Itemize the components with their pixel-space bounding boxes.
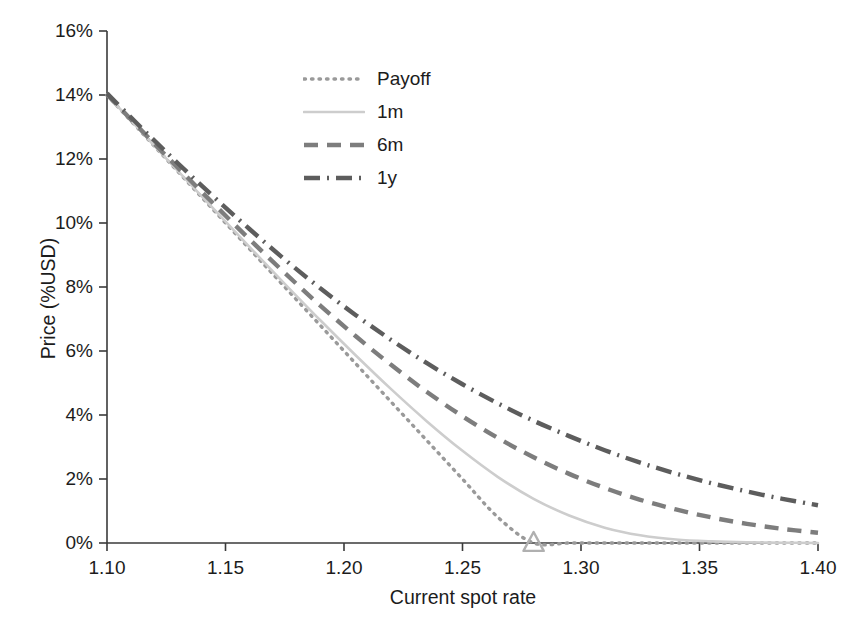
legend-label: 1m <box>377 101 403 123</box>
legend-item-1m[interactable]: 1m <box>303 95 431 128</box>
y-tick-label: 2% <box>0 468 93 490</box>
x-tick-label: 1.30 <box>563 557 600 579</box>
legend-label: 1y <box>377 167 397 189</box>
axis-lines <box>107 31 818 543</box>
y-tick-label: 14% <box>0 84 93 106</box>
chart-container: 0%2%4%6%8%10%12%14%16% 1.101.151.201.251… <box>0 0 851 621</box>
series-line-1y <box>107 93 818 505</box>
legend-label: 6m <box>377 134 403 156</box>
legend-label: Payoff <box>377 68 431 90</box>
y-axis-title: Price (%USD) <box>37 189 60 409</box>
legend-swatch-6m-icon <box>303 136 365 154</box>
strike-marker <box>523 532 543 551</box>
legend-item-1y[interactable]: 1y <box>303 161 431 194</box>
x-tick-label: 1.10 <box>89 557 126 579</box>
x-tick-label: 1.40 <box>800 557 837 579</box>
legend-swatch-payoff-icon <box>303 70 365 88</box>
x-axis-title: Current spot rate <box>107 586 819 609</box>
legend-item-payoff[interactable]: Payoff <box>303 62 431 95</box>
y-tick-label: 0% <box>0 532 93 554</box>
x-tick-label: 1.15 <box>207 557 244 579</box>
series-line-payoff <box>107 95 818 545</box>
series-line-6m <box>107 94 818 532</box>
tick-marks <box>99 31 818 551</box>
x-tick-label: 1.25 <box>444 557 481 579</box>
legend-item-6m[interactable]: 6m <box>303 128 431 161</box>
chart-legend: Payoff1m6m1y <box>303 62 431 194</box>
series-line-1m <box>107 95 818 543</box>
legend-swatch-1y-icon <box>303 169 365 187</box>
y-tick-label: 12% <box>0 148 93 170</box>
y-tick-label: 16% <box>0 20 93 42</box>
legend-swatch-1m-icon <box>303 103 365 121</box>
series-paths <box>107 93 818 544</box>
x-tick-label: 1.35 <box>681 557 718 579</box>
strike-marker <box>523 532 543 551</box>
x-tick-label: 1.20 <box>326 557 363 579</box>
